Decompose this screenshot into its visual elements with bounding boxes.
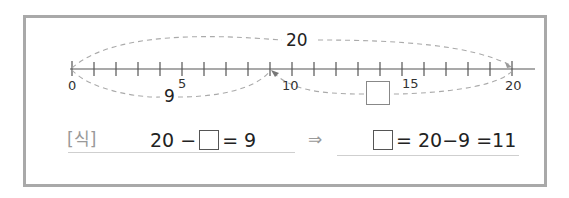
tick-label-10: 10 (282, 79, 299, 92)
equation-left-part1: 20 − (150, 129, 196, 151)
tick-label-0: 0 (68, 79, 76, 92)
arc-label-top: 20 (286, 32, 308, 49)
equation-right-part: = 20−9 =11 (396, 129, 516, 151)
tick-label-20: 20 (505, 79, 522, 92)
tick-label-5: 5 (178, 77, 186, 90)
equation-underline-right (337, 155, 519, 156)
arc-top-left (72, 37, 282, 68)
unknown-answer-box (366, 81, 390, 105)
arc-bottom-left-b (178, 71, 270, 97)
equation-left: 20 −= 9 (150, 130, 256, 150)
arc-label-bottom-left: 9 (164, 88, 175, 105)
arrowhead-top (505, 62, 512, 68)
equation-blank-box (199, 130, 219, 150)
equation-answer-box (373, 130, 393, 150)
equation-underline-left (68, 152, 295, 153)
arc-top-right (318, 40, 510, 65)
equation-left-part2: = 9 (222, 129, 256, 151)
implies-arrow: ⇒ (308, 131, 322, 148)
equation-prefix: [식] (67, 131, 96, 148)
number-line-diagram (0, 0, 569, 198)
arrowhead-bottom (271, 70, 279, 77)
equation-right: = 20−9 =11 (370, 130, 516, 150)
tick-label-15: 15 (402, 77, 419, 90)
number-line-ticks (72, 61, 512, 76)
